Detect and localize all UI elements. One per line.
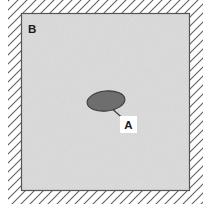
technical-diagram: A B — [0, 0, 211, 211]
label-a: A — [120, 116, 137, 133]
diagram-canvas: A B — [0, 0, 211, 211]
label-b-text: B — [28, 23, 36, 35]
label-a-text: A — [124, 119, 132, 131]
label-b: B — [28, 23, 36, 35]
